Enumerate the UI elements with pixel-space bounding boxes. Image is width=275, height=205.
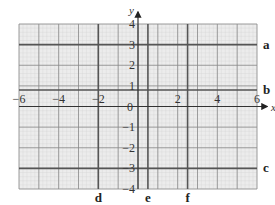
line-label-b: b (263, 82, 270, 97)
x-tick-label: −6 (13, 92, 26, 106)
origin-label: 0 (127, 100, 133, 114)
line-label-a: a (263, 37, 270, 52)
coordinate-grid-figure: xy −6−4−224604321−1−2−3−4 abcdef (0, 0, 275, 205)
y-tick-label: 2 (129, 58, 135, 72)
y-tick-label: −4 (122, 182, 135, 196)
y-tick-label: −1 (122, 120, 135, 134)
x-axis-label: x (270, 101, 275, 113)
x-tick-label: −2 (92, 92, 105, 106)
x-tick-label: 2 (175, 92, 181, 106)
line-label-d: d (95, 190, 103, 205)
line-label-c: c (263, 160, 269, 175)
x-tick-label: −4 (52, 92, 65, 106)
y-tick-label: −2 (122, 141, 135, 155)
y-tick-label: 1 (129, 79, 135, 93)
y-axis-label: y (128, 4, 134, 16)
line-label-e: e (145, 190, 151, 205)
y-tick-label: 4 (129, 17, 135, 31)
y-tick-label: 3 (129, 38, 135, 52)
x-tick-label: 6 (254, 92, 260, 106)
y-tick-label: −3 (122, 161, 135, 175)
x-tick-label: 4 (214, 92, 220, 106)
line-label-f: f (185, 190, 190, 205)
